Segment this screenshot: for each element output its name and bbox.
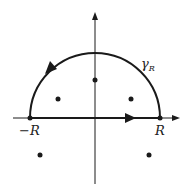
contour-diagram xyxy=(0,0,193,194)
endpoint-minus-r xyxy=(28,116,33,121)
segment-direction-arrow-icon xyxy=(125,113,136,123)
pole-point xyxy=(56,97,61,102)
label-r: R xyxy=(155,124,165,137)
pole-point xyxy=(93,78,98,83)
pole-point xyxy=(129,97,134,102)
imaginary-axis-arrow-icon xyxy=(92,12,98,20)
gamma-subscript: R xyxy=(149,64,155,73)
label-gamma-r: γR xyxy=(141,57,155,73)
arc-direction-arrow-icon xyxy=(45,61,57,74)
label-minus-r: −R xyxy=(19,124,40,137)
pole-point xyxy=(38,153,43,158)
endpoint-r xyxy=(158,116,163,121)
pole-point xyxy=(147,153,152,158)
real-axis-arrow-icon xyxy=(172,115,180,121)
gamma-symbol: γ xyxy=(141,56,149,71)
